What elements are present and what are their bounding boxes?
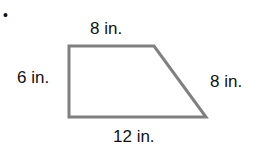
right-side-label: 8 in. xyxy=(210,73,242,90)
top-side-label: 8 in. xyxy=(90,20,122,37)
bottom-side-label: 12 in. xyxy=(113,128,155,145)
trapezoid-outline xyxy=(69,46,206,117)
left-side-label: 6 in. xyxy=(17,69,49,86)
